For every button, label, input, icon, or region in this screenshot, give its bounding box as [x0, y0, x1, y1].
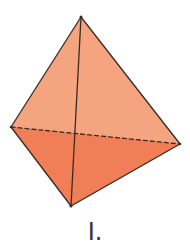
vertex-left [10, 126, 13, 129]
figure-canvas: I. [0, 0, 190, 247]
figure-label: I. [0, 218, 190, 246]
vertex-right [179, 143, 182, 146]
vertex-apex [80, 16, 83, 19]
vertex-bottom [70, 205, 73, 208]
tetrahedron-diagram [0, 0, 190, 247]
